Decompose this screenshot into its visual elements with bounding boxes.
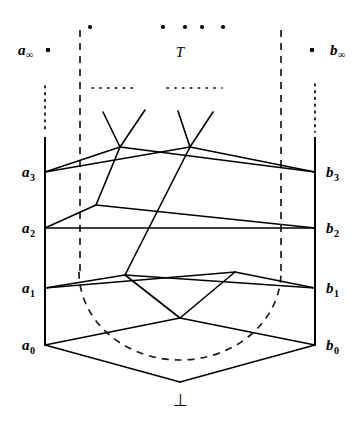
figure-background	[0, 0, 360, 422]
lattice-diagram-canvas: a∞ a3 a2 a1 a0 b∞ b3 b2 b1 b0 T ⊥	[0, 0, 360, 422]
top-dot-3	[183, 25, 187, 29]
top-dot-1	[88, 25, 92, 29]
top-dot-5	[221, 25, 225, 29]
top-dot-2	[161, 25, 165, 29]
label-bottom-element: ⊥	[173, 391, 188, 410]
a-infinity-dot	[46, 48, 51, 53]
lattice-diagram-figure: a∞ a3 a2 a1 a0 b∞ b3 b2 b1 b0 T ⊥	[0, 0, 360, 422]
top-dot-4	[200, 25, 204, 29]
b-infinity-dot	[310, 48, 315, 53]
